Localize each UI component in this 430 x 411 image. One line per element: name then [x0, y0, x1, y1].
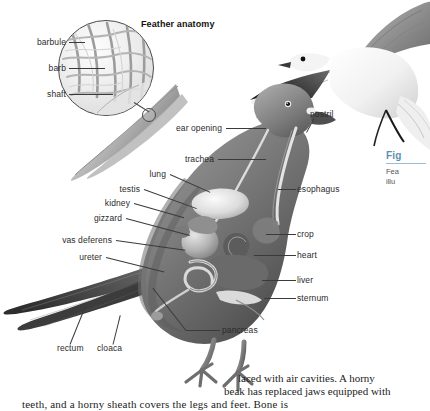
- caption-line-2: illu: [386, 177, 430, 187]
- leader-sternum: [264, 298, 296, 299]
- label-heart: heart: [297, 251, 317, 260]
- label-ear-opening: ear opening: [168, 124, 222, 133]
- leader-barb: [69, 68, 105, 69]
- leader-crop: [266, 234, 296, 235]
- body-text-block: laced with air cavities. A horny beak ha…: [0, 372, 430, 411]
- leader-ear-opening: [226, 128, 266, 129]
- body-text-line-3: teeth, and a horny sheath covers the leg…: [22, 398, 288, 411]
- label-barb: barb: [14, 64, 66, 73]
- caption-rule: [386, 163, 426, 164]
- figure-caption: Fig Fea illu: [386, 150, 430, 187]
- leader-shaft: [69, 94, 113, 95]
- label-gizzard: gizzard: [72, 214, 122, 223]
- label-sternum: sternum: [297, 294, 328, 303]
- label-ureter: ureter: [46, 253, 102, 262]
- label-shaft: shaft: [14, 90, 66, 99]
- leader-heart: [254, 255, 296, 256]
- figure-number: Fig: [386, 150, 430, 161]
- leader-pancreas: [186, 330, 220, 331]
- body-text-line-2: beak has replaced jaws equipped with: [224, 385, 390, 399]
- leader-trachea: [218, 159, 266, 160]
- label-pancreas: pancreas: [222, 326, 258, 335]
- label-liver: liver: [297, 276, 313, 285]
- label-rectum: rectum: [57, 344, 84, 353]
- label-trachea: trachea: [160, 155, 214, 164]
- label-vas-deferens: vas deferens: [46, 236, 112, 245]
- caption-line-1: Fea: [386, 167, 430, 177]
- feather-anatomy-title: Feather anatomy: [141, 19, 215, 29]
- body-text-line-1: laced with air cavities. A horny: [238, 372, 375, 386]
- textbook-page: Feather anatomy barbule barb shaft ear o…: [0, 0, 430, 411]
- magnifier-focus-circle: [142, 108, 156, 122]
- leader-esophagus: [278, 189, 296, 190]
- label-barbule: barbule: [14, 38, 66, 47]
- label-esophagus: esophagus: [297, 185, 340, 194]
- label-kidney: kidney: [82, 199, 130, 208]
- label-testis: testis: [92, 185, 140, 194]
- label-crop: crop: [297, 230, 314, 239]
- leader-barbule: [69, 42, 85, 43]
- label-lung: lung: [118, 170, 166, 179]
- leader-liver: [262, 280, 296, 281]
- label-cloaca: cloaca: [97, 344, 122, 353]
